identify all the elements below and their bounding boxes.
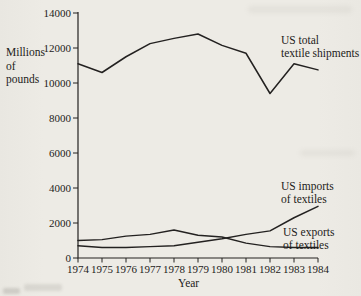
data-line-2 (78, 230, 318, 248)
y-axis-title: Millions of pounds (6, 46, 45, 87)
series-label-total-shipments: US total textile shipments (281, 34, 359, 59)
series-label-line: textile shipments (281, 47, 359, 60)
x-tick-label: 1975 (91, 263, 114, 275)
series-label-exports: US exports of textiles (283, 226, 334, 251)
series-label-line: of textiles (281, 193, 334, 206)
series-label-imports: US imports of textiles (281, 180, 334, 205)
series-label-line: US exports (283, 226, 334, 239)
x-tick-label: 1978 (163, 263, 186, 275)
x-tick-label: 1977 (139, 263, 162, 275)
y-axis-title-line: pounds (6, 73, 45, 87)
x-tick-label: 1979 (187, 263, 210, 275)
series-label-line: US imports (281, 180, 334, 193)
y-axis-title-line: Millions (6, 46, 45, 60)
textile-trade-line-chart: 0200040006000800010000120001400019741975… (0, 0, 361, 296)
y-tick-label: 6000 (49, 147, 72, 159)
y-tick-label: 10000 (44, 77, 72, 89)
data-line-1 (78, 206, 318, 247)
x-tick-label: 1984 (307, 263, 330, 275)
x-tick-label: 1982 (259, 263, 281, 275)
series-label-line: of textiles (283, 239, 334, 252)
y-tick-label: 4000 (49, 182, 72, 194)
x-axis-title: Year (178, 277, 199, 289)
x-tick-label: 1974 (67, 263, 90, 275)
x-tick-label: 1983 (283, 263, 306, 275)
series-label-line: US total (281, 34, 359, 47)
y-axis-title-line: of (6, 60, 45, 74)
y-tick-label: 2000 (49, 217, 72, 229)
x-tick-label: 1981 (235, 263, 257, 275)
y-tick-label: 8000 (49, 112, 72, 124)
x-tick-label: 1976 (115, 263, 138, 275)
y-tick-label: 14000 (44, 7, 72, 19)
x-tick-label: 1980 (211, 263, 234, 275)
y-tick-label: 12000 (44, 42, 72, 54)
